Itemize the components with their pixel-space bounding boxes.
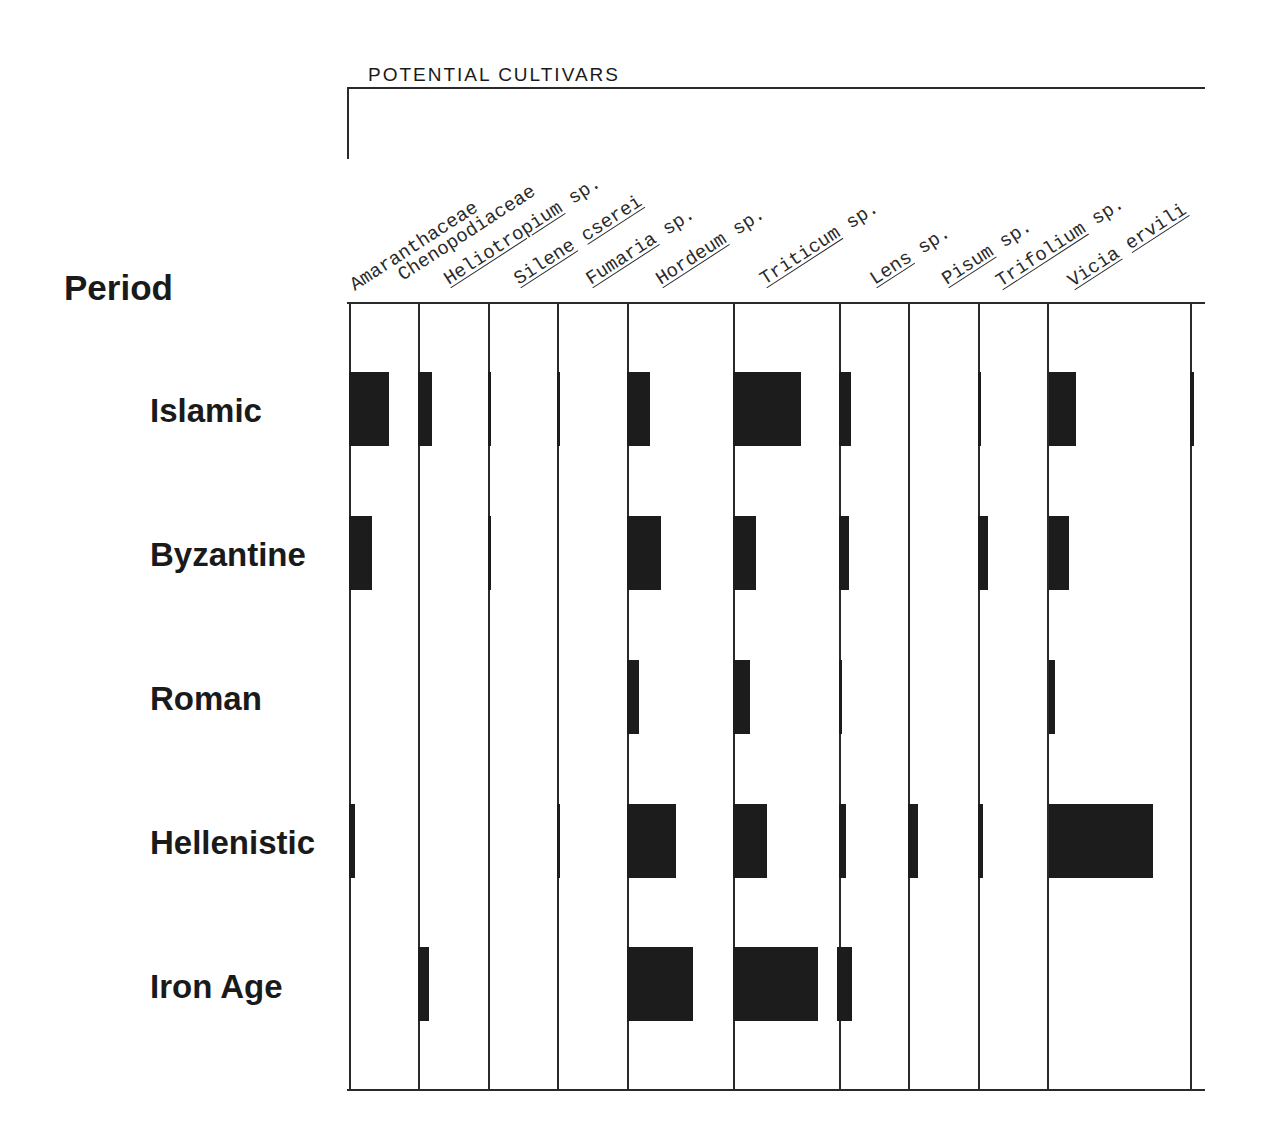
abundance-bar bbox=[733, 372, 801, 446]
abundance-bar bbox=[908, 804, 918, 878]
abundance-bar bbox=[349, 372, 389, 446]
abundance-bar bbox=[978, 516, 988, 590]
abundance-bar bbox=[418, 947, 429, 1021]
period-label-roman: Roman bbox=[150, 680, 262, 718]
abundance-bar bbox=[627, 660, 639, 734]
taxon-label: Triticum sp. bbox=[756, 197, 883, 290]
abundance-bar bbox=[1049, 804, 1153, 878]
period-axis-heading: Period bbox=[64, 268, 173, 308]
abundance-bar bbox=[837, 947, 852, 1021]
abundance-bar bbox=[627, 947, 693, 1021]
abundance-bar bbox=[1049, 660, 1055, 734]
taxon-label: Lens sp. bbox=[866, 222, 954, 290]
abundance-bar bbox=[978, 372, 981, 446]
abundance-bar bbox=[839, 516, 849, 590]
header-bracket-tick bbox=[347, 87, 349, 159]
abundance-bar bbox=[557, 372, 560, 446]
abundance-bar bbox=[488, 516, 491, 590]
period-label-islamic: Islamic bbox=[150, 392, 262, 430]
abundance-bar bbox=[627, 372, 650, 446]
abundance-bar bbox=[627, 516, 661, 590]
abundance-bar bbox=[733, 947, 818, 1021]
grid-bottom-rule bbox=[347, 1089, 1205, 1091]
abundance-bar bbox=[488, 372, 491, 446]
period-label-hellenistic: Hellenistic bbox=[150, 824, 315, 862]
abundance-bar bbox=[733, 660, 750, 734]
abundance-bar bbox=[839, 372, 851, 446]
column-divider bbox=[908, 302, 910, 1090]
period-label-iron-age: Iron Age bbox=[150, 968, 283, 1006]
abundance-bar bbox=[1049, 372, 1076, 446]
header-bracket-rule bbox=[347, 87, 1205, 89]
abundance-bar bbox=[627, 804, 676, 878]
abundance-bar bbox=[1190, 372, 1194, 446]
abundance-bar bbox=[1049, 516, 1069, 590]
period-label-byzantine: Byzantine bbox=[150, 536, 306, 574]
abundance-bar bbox=[978, 804, 983, 878]
abundance-bar bbox=[418, 372, 432, 446]
abundance-bar bbox=[733, 804, 767, 878]
abundance-bar bbox=[349, 804, 355, 878]
abundance-bar bbox=[839, 660, 842, 734]
abundance-bar bbox=[349, 516, 372, 590]
abundance-bar bbox=[557, 804, 560, 878]
chart-title: POTENTIAL CULTIVARS bbox=[368, 64, 620, 86]
grid-top-rule bbox=[347, 302, 1205, 304]
abundance-bar bbox=[839, 804, 846, 878]
abundance-bar bbox=[733, 516, 756, 590]
